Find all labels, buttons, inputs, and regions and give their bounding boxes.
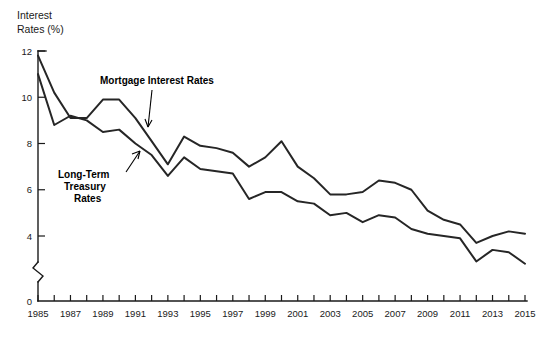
x-tick-label-1991: 1991 — [125, 308, 146, 319]
x-tick-label-1999: 1999 — [255, 308, 276, 319]
y-axis-break-zigzag — [33, 262, 43, 282]
x-tick-label-2009: 2009 — [417, 308, 438, 319]
y-tick-label-0: 0 — [27, 296, 32, 307]
chart-svg: Interest Rates (%) 04681012 198519871989… — [0, 0, 553, 339]
x-tick-label-1993: 1993 — [157, 308, 178, 319]
y-tick-label-12: 12 — [21, 46, 32, 57]
x-tick-label-2011: 2011 — [450, 308, 470, 319]
y-tick-label-8: 8 — [27, 138, 32, 149]
mortgage-series-label: Mortgage Interest Rates — [100, 75, 214, 86]
treasury-series-label-line1: Long-Term — [58, 169, 110, 180]
y-axis-title-line1: Interest — [17, 9, 52, 21]
x-tick-label-1985: 1985 — [27, 308, 48, 319]
x-axis-tick-labels: 1985198719891991199319951997199920012003… — [27, 308, 535, 319]
x-tick-label-2007: 2007 — [385, 308, 406, 319]
y-tick-label-6: 6 — [27, 184, 32, 195]
x-tick-label-2013: 2013 — [482, 308, 503, 319]
treasury-series-label-line3: Rates — [74, 193, 102, 204]
y-tick-label-10: 10 — [21, 92, 32, 103]
y-tick-label-4: 4 — [27, 231, 32, 242]
x-tick-label-1995: 1995 — [190, 308, 211, 319]
x-tick-label-2003: 2003 — [320, 308, 341, 319]
x-axis-ticks — [38, 295, 525, 301]
x-tick-label-1997: 1997 — [222, 308, 243, 319]
series-line-long-term-treasury-rates — [38, 74, 525, 264]
x-tick-label-2001: 2001 — [287, 308, 308, 319]
y-axis-title-line2: Rates (%) — [17, 23, 64, 35]
y-axis-tick-labels: 04681012 — [21, 46, 32, 307]
x-tick-label-1987: 1987 — [60, 308, 81, 319]
interest-rates-chart: Interest Rates (%) 04681012 198519871989… — [0, 0, 553, 339]
x-tick-label-2005: 2005 — [352, 308, 373, 319]
x-tick-label-2015: 2015 — [514, 308, 535, 319]
x-tick-label-1989: 1989 — [92, 308, 113, 319]
treasury-series-label-line2: Treasury — [64, 181, 106, 192]
